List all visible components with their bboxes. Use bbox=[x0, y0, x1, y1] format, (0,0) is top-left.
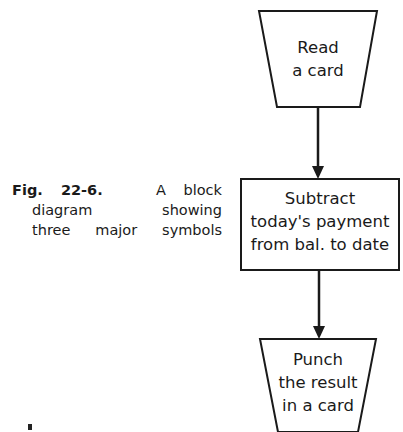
node-text-line: a card bbox=[268, 59, 368, 82]
arrowhead-down-icon bbox=[312, 166, 324, 179]
caption-line-1: Fig. 22-6. A block bbox=[12, 180, 222, 200]
read-card-label: Read a card bbox=[268, 36, 368, 82]
punch-card-label: Punch the result in a card bbox=[266, 348, 370, 417]
node-text-line: from bal. to date bbox=[242, 233, 398, 256]
caption-text: A block bbox=[156, 182, 222, 198]
node-text-line: Subtract bbox=[242, 187, 398, 210]
caption-line-3: three major symbols bbox=[12, 220, 222, 240]
figure-label: Fig. 22-6. bbox=[12, 182, 103, 198]
node-text-line: today's payment bbox=[242, 210, 398, 233]
scan-artifact bbox=[28, 424, 32, 430]
figure-caption: Fig. 22-6. A block diagram showing three… bbox=[12, 180, 222, 240]
node-text-line: Punch bbox=[266, 348, 370, 371]
node-text-line: Read bbox=[268, 36, 368, 59]
process-label: Subtract today's payment from bal. to da… bbox=[242, 187, 398, 256]
arrowhead-down-icon bbox=[313, 326, 325, 339]
node-text-line: the result bbox=[266, 371, 370, 394]
node-text-line: in a card bbox=[266, 394, 370, 417]
caption-line-2: diagram showing bbox=[12, 200, 222, 220]
